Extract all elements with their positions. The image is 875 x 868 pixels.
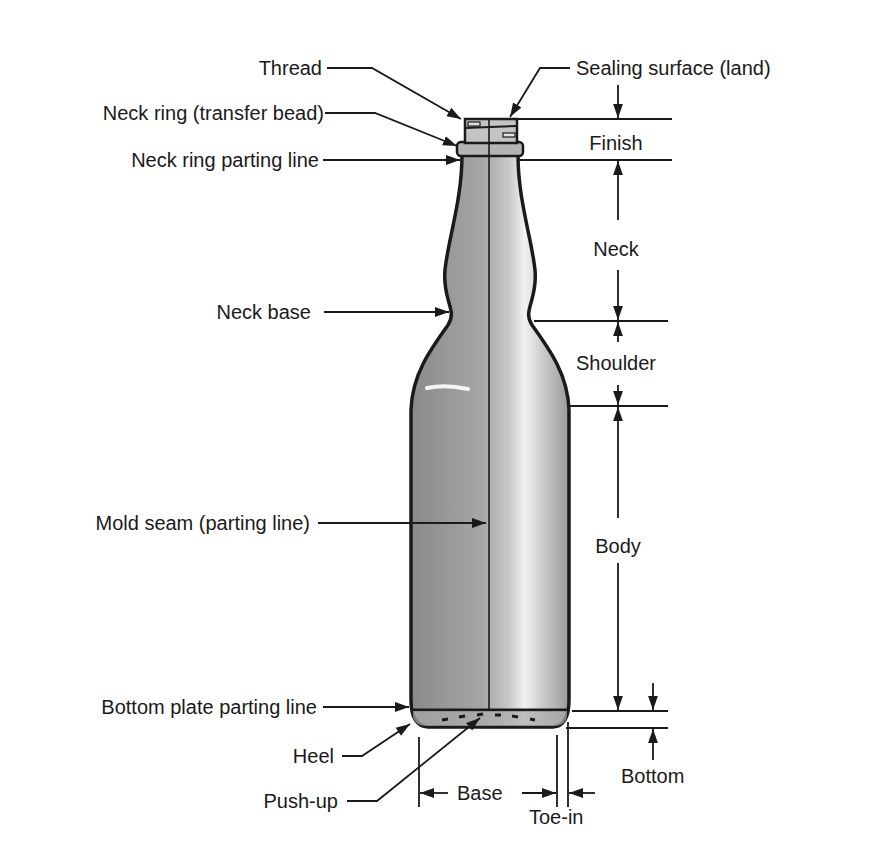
label-mold-seam: Mold seam (parting line) [95, 512, 310, 534]
bottle-illustration [411, 119, 569, 727]
label-thread: Thread [259, 57, 322, 79]
label-push-up: Push-up [264, 790, 339, 812]
label-neck-ring-parting-line: Neck ring parting line [131, 149, 319, 171]
bottle-outline [411, 155, 569, 727]
label-shoulder: Shoulder [576, 352, 656, 374]
label-finish: Finish [589, 132, 642, 154]
label-heel: Heel [293, 745, 334, 767]
label-toe-in: Toe-in [529, 806, 583, 828]
bottom-dimensions [419, 722, 595, 807]
label-bottom-plate-parting-line: Bottom plate parting line [101, 696, 317, 718]
label-body: Body [595, 535, 641, 557]
label-neck: Neck [593, 238, 639, 260]
label-bottom: Bottom [621, 765, 684, 787]
label-neck-base: Neck base [217, 301, 312, 323]
label-neck-ring: Neck ring (transfer bead) [103, 102, 324, 124]
bottle-diagram [0, 0, 875, 868]
label-sealing-surface: Sealing surface (land) [576, 57, 771, 79]
label-base: Base [457, 782, 503, 804]
